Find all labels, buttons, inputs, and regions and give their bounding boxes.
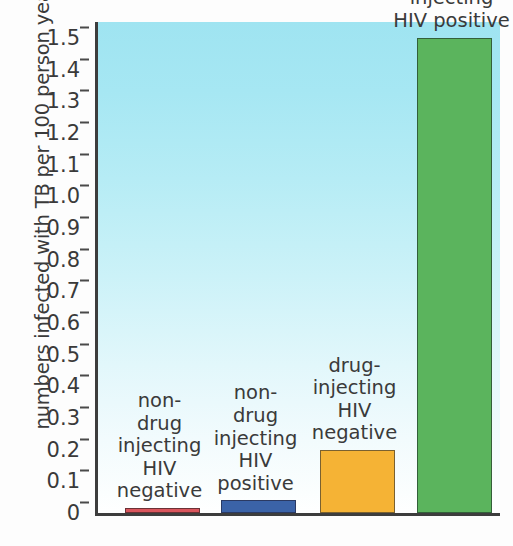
y-tick-12: 1.2	[47, 122, 80, 143]
bar-label-drug-injecting-hiv-positive: drug-injecting HIV positive	[393, 0, 511, 33]
y-tick-7: 0.7	[47, 281, 80, 302]
tick-mark-icon	[80, 248, 89, 250]
tick-mark-icon	[80, 311, 89, 313]
tick-mark-icon	[80, 438, 89, 440]
y-tick-14: 1.4	[47, 59, 80, 80]
tick-mark-icon	[80, 343, 89, 345]
y-tick-8: 0.8	[47, 249, 80, 270]
y-tick-3: 0.3	[47, 407, 80, 428]
tick-mark-icon	[80, 470, 89, 472]
y-axis-tick-labels: 0 0.1 0.2 0.3 0.4 0.5 0.6 0.7 0.8 0.9 1.…	[22, 0, 84, 546]
y-tick-1: 0.1	[47, 471, 80, 492]
tick-mark-icon	[80, 58, 89, 60]
tick-mark-icon	[80, 185, 89, 187]
y-tick-5: 0.5	[47, 344, 80, 365]
y-tick-0: 0	[67, 503, 80, 524]
bar-drug-injecting-hiv-positive	[417, 38, 492, 513]
tick-mark-icon	[80, 375, 89, 377]
tick-mark-icon	[80, 216, 89, 218]
tick-mark-icon	[80, 502, 89, 504]
y-tick-6: 0.6	[47, 312, 80, 333]
tick-mark-icon	[80, 406, 89, 408]
tick-mark-icon	[80, 121, 89, 123]
y-tick-13: 1.3	[47, 91, 80, 112]
bar-non-drug-injecting-hiv-positive	[221, 500, 296, 513]
x-axis-line	[95, 513, 500, 516]
tick-mark-icon	[80, 26, 89, 28]
bar-label-drug-injecting-hiv-negative: drug- injecting HIV negative	[296, 355, 414, 445]
y-tick-9: 0.9	[47, 217, 80, 238]
y-tick-4: 0.4	[47, 376, 80, 397]
y-tick-11: 1.1	[47, 154, 80, 175]
y-tick-10: 1.0	[47, 186, 80, 207]
y-tick-2: 0.2	[47, 439, 80, 460]
y-tick-15: 1.5	[47, 27, 80, 48]
tick-mark-icon	[80, 90, 89, 92]
tick-mark-icon	[80, 280, 89, 282]
tick-mark-icon	[80, 153, 89, 155]
bar-chart-figure: numbers infected with TB per 100 person …	[0, 0, 513, 546]
bar-drug-injecting-hiv-negative	[320, 450, 395, 513]
